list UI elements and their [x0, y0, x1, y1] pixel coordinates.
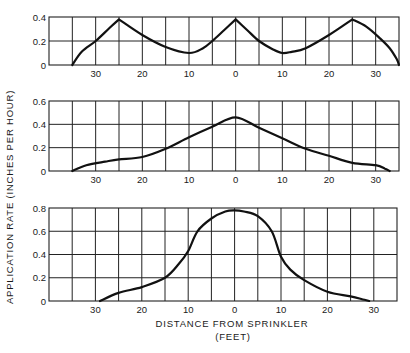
y-tick-label: 0.8 [33, 203, 46, 214]
y-tick-label: 0 [41, 166, 46, 177]
x-tick-label: 10 [184, 68, 195, 79]
x-tick-label: 30 [370, 68, 381, 79]
x-tick-label: 30 [90, 304, 101, 315]
x-tick-label: 20 [137, 174, 148, 185]
x-tick-label: 10 [276, 304, 287, 315]
y-tick-label: 0.2 [33, 142, 46, 153]
x-tick-label: 10 [184, 174, 195, 185]
y-tick-label: 0.2 [33, 36, 46, 47]
y-tick-label: 0.4 [33, 12, 46, 23]
x-tick-label: 10 [277, 174, 288, 185]
x-tick-label: 20 [324, 68, 335, 79]
x-tick-label: 30 [370, 174, 381, 185]
x-tick-label: 0 [233, 174, 238, 185]
x-tick-label: 0 [232, 304, 237, 315]
chart-panel-bottom: 00.20.40.60.83020100102030 [33, 203, 397, 316]
x-tick-label: 30 [369, 304, 380, 315]
y-tick-label: 0.2 [33, 272, 46, 283]
y-tick-label: 0 [41, 296, 46, 307]
x-tick-label: 20 [137, 304, 148, 315]
y-tick-label: 0.4 [33, 119, 46, 130]
y-tick-label: 0.4 [33, 249, 46, 260]
sprinkler-distribution-figure: 00.20.43020100102030 00.20.40.6302010010… [0, 0, 410, 353]
application-rate-curve [72, 117, 389, 171]
x-tick-label: 30 [90, 68, 101, 79]
x-axis-label: DISTANCE FROM SPRINKLER [156, 318, 309, 329]
y-tick-label: 0 [41, 60, 46, 71]
y-tick-label: 0.6 [33, 226, 46, 237]
y-axis-label: APPLICATION RATE (INCHES PER HOUR) [4, 90, 15, 304]
x-tick-label: 10 [183, 304, 194, 315]
x-tick-label: 20 [324, 174, 335, 185]
horizontal-gridlines [49, 124, 399, 147]
x-tick-label: 30 [90, 174, 101, 185]
horizontal-gridlines [49, 231, 397, 278]
x-tick-label: 0 [233, 68, 238, 79]
x-tick-label: 20 [137, 68, 148, 79]
y-tick-label: 0.6 [33, 96, 46, 107]
chart-panel-top: 00.20.43020100102030 [33, 12, 399, 80]
chart-panel-middle: 00.20.40.63020100102030 [33, 96, 399, 186]
x-tick-label: 10 [277, 68, 288, 79]
x-tick-label: 20 [322, 304, 333, 315]
x-axis-label-units: (FEET) [215, 331, 250, 342]
